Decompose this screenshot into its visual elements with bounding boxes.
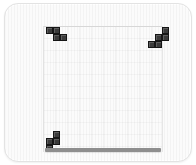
block-cell <box>53 138 60 145</box>
block-cell <box>46 138 53 145</box>
block-cell <box>53 34 60 41</box>
playfield-right-rail <box>162 26 163 152</box>
playfield-top-rail <box>43 26 163 27</box>
playfield[interactable] <box>43 26 163 152</box>
block-cell <box>162 34 169 41</box>
block-cell <box>60 34 67 41</box>
block-cell <box>53 27 60 34</box>
block-cell <box>53 131 60 138</box>
stack-floor-bar <box>45 148 161 152</box>
block-cell <box>155 41 162 48</box>
block-cell <box>155 34 162 41</box>
block-cell <box>162 27 169 34</box>
block-cell <box>46 27 53 34</box>
game-panel <box>4 3 192 162</box>
block-cell <box>148 41 155 48</box>
playfield-grid <box>43 26 163 152</box>
game-screenshot <box>0 0 196 165</box>
playfield-left-rail <box>43 26 44 152</box>
